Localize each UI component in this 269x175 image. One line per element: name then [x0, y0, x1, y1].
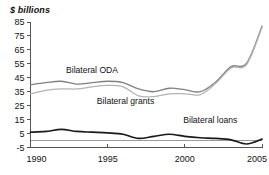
series-label: Bilateral ODA: [66, 65, 118, 75]
chart-container: $ billions 85756555453525155-5 199019952…: [0, 0, 269, 175]
series-annotations: Bilateral ODABilateral grantsBilateral l…: [66, 65, 237, 125]
y-tick-label: 55: [14, 59, 24, 69]
y-tick-label: 75: [14, 31, 24, 41]
y-tick-label: 85: [14, 17, 24, 27]
y-tick-label: 45: [14, 73, 24, 83]
x-tick-label: 2005: [247, 154, 267, 164]
series-line: [31, 26, 263, 92]
y-tick-label: 5: [19, 129, 24, 139]
x-tick-label: 1990: [27, 154, 47, 164]
series-line: [31, 28, 263, 97]
series-label: Bilateral grants: [97, 96, 154, 106]
y-axis: 85756555453525155-5: [14, 17, 30, 153]
y-tick-label: 15: [14, 115, 24, 125]
chart-plot: 85756555453525155-5 1990199520002005 Bil…: [0, 0, 269, 175]
series-lines: [31, 26, 263, 144]
y-tick-label: 65: [14, 45, 24, 55]
series-line: [31, 129, 263, 144]
x-tick-label: 2000: [175, 154, 195, 164]
y-tick-label: 25: [14, 101, 24, 111]
series-label: Bilateral loans: [183, 115, 237, 125]
y-tick-label: -5: [16, 143, 24, 153]
x-axis: 1990199520002005: [27, 144, 268, 164]
x-tick-label: 1995: [98, 154, 118, 164]
y-tick-label: 35: [14, 87, 24, 97]
